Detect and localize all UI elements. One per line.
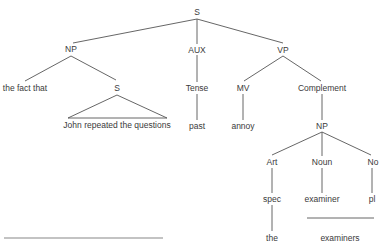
leaf-annoy: annoy xyxy=(230,122,255,131)
syntax-tree-diagram: S NP AUX VP the fact that S John repeate… xyxy=(0,0,381,244)
edge-np-fact xyxy=(25,56,71,81)
node-aux: AUX xyxy=(187,46,206,55)
edge-s-vp xyxy=(197,19,283,43)
node-np2: NP xyxy=(315,122,329,131)
node-embedded-s: S xyxy=(113,84,121,93)
node-complement: Complement xyxy=(297,84,347,93)
embedded-s-triangle xyxy=(68,95,167,118)
leaf-past: past xyxy=(188,122,206,131)
edge-np2-no xyxy=(322,132,371,155)
leaf-examiner: examiner xyxy=(304,195,341,204)
node-tense: Tense xyxy=(185,84,210,93)
leaf-spec: spec xyxy=(262,195,282,204)
edge-s-np xyxy=(73,19,197,43)
node-art: Art xyxy=(266,158,279,167)
leaf-embedded-sentence: John repeated the questions xyxy=(62,121,171,130)
edge-vp-mv xyxy=(244,56,283,81)
leaf-the-fact-that: the fact that xyxy=(2,84,48,93)
edge-np2-art xyxy=(272,132,322,155)
leaf-the: the xyxy=(265,234,279,243)
node-root-s: S xyxy=(193,8,201,17)
node-np: NP xyxy=(64,45,78,54)
leaf-pl: pl xyxy=(368,195,377,204)
edge-np-s xyxy=(71,56,116,80)
node-noun: Noun xyxy=(311,158,333,167)
node-number: No xyxy=(367,158,380,167)
edge-vp-complement xyxy=(283,56,321,81)
node-vp: VP xyxy=(276,46,289,55)
leaf-examiners: examiners xyxy=(319,234,360,243)
node-mv: MV xyxy=(236,84,251,93)
